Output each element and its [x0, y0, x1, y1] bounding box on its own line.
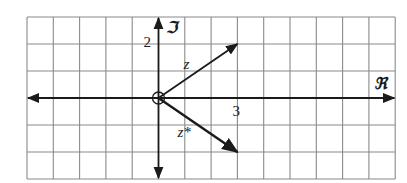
imaginary-axis-label: ℑ [166, 20, 177, 36]
vector-z-label: z [184, 57, 190, 72]
complex-plane-svg [0, 0, 407, 183]
complex-plane-diagram: ℑ ℜ 2 3 z z* [0, 0, 407, 183]
real-tick-label: 3 [232, 104, 240, 119]
real-axis-label: ℜ [374, 76, 387, 92]
imag-tick-label: 2 [144, 35, 152, 50]
vector-z-conjugate-label: z* [178, 125, 191, 140]
